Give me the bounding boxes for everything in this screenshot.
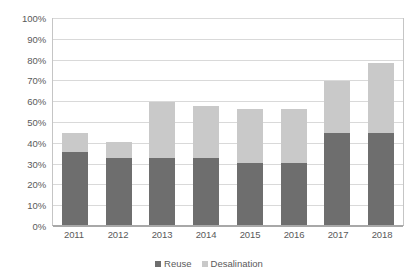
bar-segment-desalination[interactable] — [149, 102, 175, 158]
x-tick-label: 2013 — [149, 229, 175, 240]
bar-group[interactable] — [106, 18, 132, 225]
bar-segment-reuse[interactable] — [149, 158, 175, 225]
x-axis: 20112012201320142015201620172018 — [52, 229, 404, 245]
y-tick-label: 30% — [27, 158, 46, 169]
y-tick-label: 10% — [27, 200, 46, 211]
legend-item[interactable]: Reuse — [155, 258, 191, 269]
bar-series-container — [53, 18, 403, 225]
chart-legend: ReuseDesalination — [0, 258, 418, 269]
y-tick-label: 100% — [22, 13, 46, 24]
bar-group[interactable] — [149, 18, 175, 225]
x-tick-label: 2017 — [325, 229, 351, 240]
bar-segment-desalination[interactable] — [368, 63, 394, 134]
x-tick-label: 2011 — [61, 229, 87, 240]
bar-segment-desalination[interactable] — [281, 109, 307, 163]
x-tick-label: 2015 — [237, 229, 263, 240]
bar-group[interactable] — [193, 18, 219, 225]
bar-segment-reuse[interactable] — [193, 158, 219, 225]
stacked-bar-chart: 0%10%20%30%40%50%60%70%80%90%100% 201120… — [0, 0, 418, 277]
y-tick-label: 40% — [27, 137, 46, 148]
bar-segment-reuse[interactable] — [281, 163, 307, 225]
bar-group[interactable] — [62, 18, 88, 225]
legend-label: Reuse — [164, 258, 191, 269]
bar-group[interactable] — [281, 18, 307, 225]
bar-segment-reuse[interactable] — [106, 158, 132, 225]
legend-label: Desalination — [211, 258, 263, 269]
legend-swatch-reuse — [155, 261, 161, 267]
bar-segment-desalination[interactable] — [106, 142, 132, 159]
y-tick-label: 70% — [27, 75, 46, 86]
bar-group[interactable] — [368, 18, 394, 225]
bar-segment-reuse[interactable] — [324, 133, 350, 225]
gridline — [53, 226, 403, 227]
plot-area — [52, 18, 404, 226]
y-tick-label: 0% — [32, 221, 46, 232]
y-tick-label: 50% — [27, 117, 46, 128]
x-tick-label: 2018 — [369, 229, 395, 240]
y-tick-label: 60% — [27, 96, 46, 107]
bar-group[interactable] — [237, 18, 263, 225]
legend-swatch-desalination — [202, 261, 208, 267]
y-axis: 0%10%20%30%40%50%60%70%80%90%100% — [0, 18, 52, 226]
y-tick-label: 20% — [27, 179, 46, 190]
bar-segment-desalination[interactable] — [324, 81, 350, 133]
bar-segment-desalination[interactable] — [62, 133, 88, 152]
bar-segment-desalination[interactable] — [193, 106, 219, 158]
x-tick-label: 2012 — [105, 229, 131, 240]
bar-segment-desalination[interactable] — [237, 109, 263, 163]
y-tick-label: 80% — [27, 54, 46, 65]
legend-item[interactable]: Desalination — [202, 258, 263, 269]
bar-group[interactable] — [324, 18, 350, 225]
bar-segment-reuse[interactable] — [237, 163, 263, 225]
x-tick-label: 2014 — [193, 229, 219, 240]
bar-segment-reuse[interactable] — [62, 152, 88, 225]
bar-segment-reuse[interactable] — [368, 133, 394, 225]
y-tick-label: 90% — [27, 33, 46, 44]
x-tick-label: 2016 — [281, 229, 307, 240]
